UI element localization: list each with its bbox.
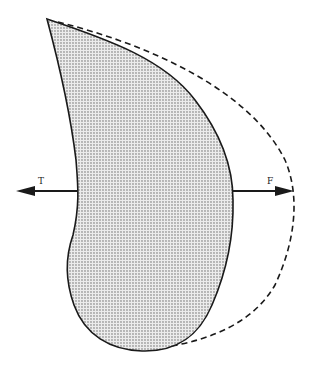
- arrow-f: [233, 186, 294, 196]
- label-f: F: [267, 176, 273, 186]
- stippled-teardrop: [47, 19, 233, 351]
- force-diagram: T F: [0, 0, 316, 370]
- arrow-t: [16, 186, 77, 196]
- label-t: T: [38, 176, 44, 186]
